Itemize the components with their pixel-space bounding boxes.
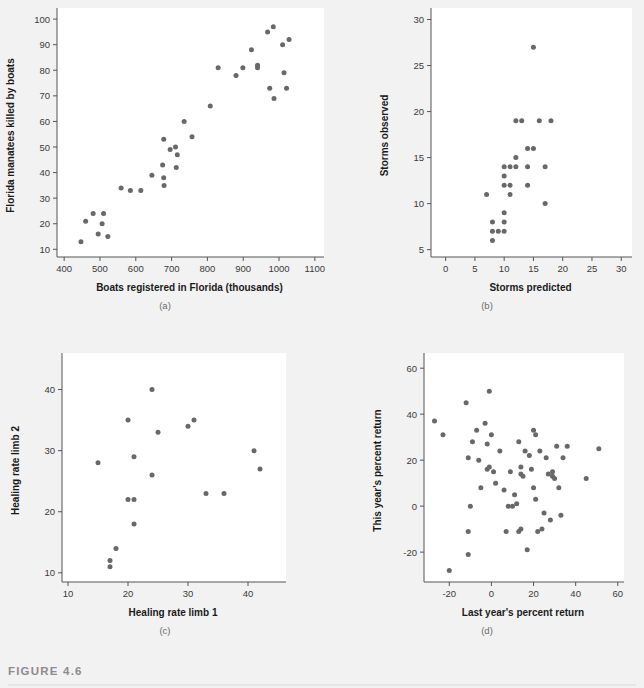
x-tick-label: 600 <box>128 263 144 274</box>
data-point <box>216 65 221 70</box>
data-point <box>240 65 245 70</box>
data-point <box>493 481 498 486</box>
data-point <box>255 65 260 70</box>
data-point <box>502 229 507 234</box>
data-point <box>128 188 133 193</box>
data-point <box>497 448 502 453</box>
data-point <box>508 192 513 197</box>
y-axis-title: Storms observed <box>379 95 390 177</box>
data-point <box>542 511 547 516</box>
y-tick-label: 100 <box>34 14 50 25</box>
data-point <box>490 238 495 243</box>
plot-background <box>424 353 624 582</box>
data-point <box>548 118 553 123</box>
data-point <box>190 134 195 139</box>
x-tick-label: 20 <box>528 588 539 599</box>
data-point <box>546 471 551 476</box>
data-point <box>114 546 119 551</box>
data-point <box>508 469 513 474</box>
data-point <box>535 529 540 534</box>
y-tick-label: 5 <box>419 244 424 255</box>
x-tick-label: 15 <box>528 263 539 274</box>
data-point <box>514 501 519 506</box>
y-tick-label: 80 <box>39 65 50 76</box>
x-tick-label: 20 <box>123 588 134 599</box>
x-tick-label: 500 <box>92 263 108 274</box>
x-tick-label: 1100 <box>305 263 325 274</box>
data-point <box>510 504 515 509</box>
data-point <box>487 389 492 394</box>
data-point <box>234 73 239 78</box>
data-point <box>565 444 570 449</box>
data-point <box>466 552 471 557</box>
data-point <box>156 430 161 435</box>
data-point <box>132 454 137 459</box>
data-point <box>544 455 549 460</box>
y-tick-label: 10 <box>413 198 424 209</box>
data-point <box>149 173 154 178</box>
x-tick-label: -20 <box>442 588 456 599</box>
data-point <box>490 220 495 225</box>
y-axis-title: Florida manatees killed by boats <box>5 58 16 213</box>
data-point <box>204 491 209 496</box>
data-point <box>174 165 179 170</box>
data-point <box>489 432 494 437</box>
data-point <box>531 45 536 50</box>
data-point <box>527 453 532 458</box>
data-point <box>474 428 479 433</box>
x-axis-title: Last year's percent return <box>462 607 584 618</box>
data-point <box>252 448 257 453</box>
data-point <box>508 183 513 188</box>
data-point <box>91 211 96 216</box>
data-point <box>490 229 495 234</box>
x-tick-label: 20 <box>557 263 568 274</box>
data-point <box>516 439 521 444</box>
y-tick-label: 70 <box>39 90 50 101</box>
data-point <box>519 118 524 123</box>
data-point <box>208 104 213 109</box>
y-tick-label: 60 <box>406 363 417 374</box>
data-point <box>513 164 518 169</box>
data-point <box>496 229 501 234</box>
x-tick-label: 0 <box>489 588 494 599</box>
data-point <box>491 469 496 474</box>
data-point <box>96 231 101 236</box>
data-point <box>525 547 530 552</box>
data-point <box>537 118 542 123</box>
data-point <box>543 164 548 169</box>
y-tick-label: 30 <box>413 14 424 25</box>
data-point <box>525 183 530 188</box>
data-point <box>478 485 483 490</box>
data-point <box>504 529 509 534</box>
y-tick-label: 10 <box>39 244 50 255</box>
data-point <box>550 469 555 474</box>
data-point <box>282 70 287 75</box>
plot-background <box>62 353 286 582</box>
data-point <box>173 145 178 150</box>
x-tick-label: 900 <box>235 263 251 274</box>
panel-b-caption: (b) <box>330 300 644 311</box>
data-point <box>280 42 285 47</box>
panel-a-caption: (a) <box>0 300 330 311</box>
data-point <box>132 497 137 502</box>
data-point <box>558 513 563 518</box>
data-point <box>267 86 272 91</box>
x-tick-label: 0 <box>443 263 448 274</box>
data-point <box>108 564 113 569</box>
data-point <box>249 47 254 52</box>
y-tick-label: 40 <box>406 409 417 420</box>
data-point <box>138 188 143 193</box>
data-point <box>502 210 507 215</box>
panel-a-svg: 4005006007008009001000110010203040506070… <box>0 0 330 305</box>
x-tick-label: 40 <box>570 588 581 599</box>
data-point <box>105 234 110 239</box>
y-tick-label: 20 <box>39 218 50 229</box>
data-point <box>584 476 589 481</box>
data-point <box>529 467 534 472</box>
y-tick-label: 15 <box>413 152 424 163</box>
data-point <box>468 504 473 509</box>
data-point <box>287 37 292 42</box>
x-tick-label: 1000 <box>268 263 289 274</box>
x-tick-label: 400 <box>56 263 72 274</box>
data-point <box>222 491 227 496</box>
